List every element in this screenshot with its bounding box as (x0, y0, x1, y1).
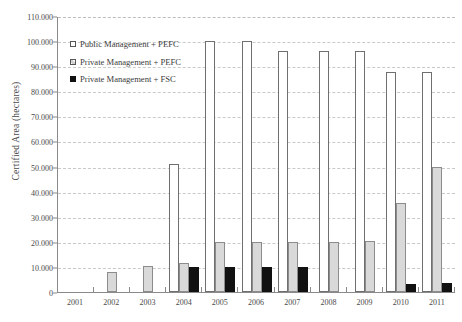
x-axis-tick-label: 2009 (347, 298, 383, 307)
bar-2005-series1 (205, 41, 215, 292)
x-axis-tick-label: 2008 (310, 298, 346, 307)
bar-2008-series2 (329, 242, 339, 292)
y-axis-tick-label: 60.000 (3, 138, 53, 147)
legend-swatch-icon (70, 76, 76, 82)
x-axis-tick-label: 2011 (419, 298, 455, 307)
x-axis-tick-label: 2007 (274, 298, 310, 307)
bar-2008-series1 (319, 51, 329, 292)
bar-group-2010 (383, 17, 419, 292)
chart-legend: Public Management + PEFCPrivate Manageme… (70, 40, 181, 93)
y-axis-tick-label: 10.000 (3, 263, 53, 272)
bar-2006-series2 (252, 242, 262, 292)
y-axis-tick-label: 100.000 (3, 38, 53, 47)
y-axis-tick-label: 50.000 (3, 163, 53, 172)
bar-2009-series2 (365, 241, 375, 292)
bar-2006-series1 (242, 41, 252, 292)
legend-label: Private Management + PEFC (80, 58, 181, 67)
x-axis-tick-label: 2001 (57, 298, 93, 307)
bar-group-2009 (347, 17, 383, 292)
legend-item-2: Private Management + PEFC (70, 58, 181, 67)
legend-swatch-icon (70, 59, 76, 65)
y-axis-tick-label: 40.000 (3, 188, 53, 197)
bar-2010-series2 (396, 203, 406, 292)
legend-label: Public Management + PEFC (80, 40, 179, 49)
bar-2010-series1 (386, 72, 396, 292)
legend-label: Private Management + FSC (80, 75, 176, 84)
x-axis-tick-label: 2004 (166, 298, 202, 307)
y-axis-tick-label: 0 (3, 289, 53, 298)
x-axis-tick-label: 2002 (93, 298, 129, 307)
bar-2007-series1 (278, 51, 288, 292)
bar-2011-series2 (432, 167, 442, 292)
bar-group-2005 (202, 17, 238, 292)
bar-2011-series1 (422, 72, 432, 292)
bar-group-2006 (238, 17, 274, 292)
bar-group-2011 (419, 17, 455, 292)
bar-2007-series3 (298, 267, 308, 292)
legend-item-1: Public Management + PEFC (70, 40, 181, 49)
y-axis-tick-label: 20.000 (3, 238, 53, 247)
legend-swatch-icon (70, 41, 76, 47)
y-axis-tick-label: 30.000 (3, 213, 53, 222)
bar-2010-series3 (406, 284, 416, 292)
x-axis-tick-label: 2006 (238, 298, 274, 307)
y-axis-tick-label: 80.000 (3, 88, 53, 97)
bar-2006-series3 (262, 267, 272, 292)
y-axis-title: Certified Area (hectares) (11, 31, 21, 231)
y-axis-tick-label: 70.000 (3, 113, 53, 122)
x-axis-tick-label: 2005 (202, 298, 238, 307)
bar-group-2008 (311, 17, 347, 292)
bar-group-2007 (275, 17, 311, 292)
bar-2005-series3 (225, 267, 235, 292)
bar-2004-series2 (179, 263, 189, 292)
bar-2007-series2 (288, 242, 298, 292)
x-axis-tick-label: 2010 (383, 298, 419, 307)
bar-2004-series1 (169, 164, 179, 292)
bar-chart: Certified Area (hectares) 110.000100.000… (0, 0, 462, 322)
bar-2002-series2 (107, 272, 117, 292)
legend-item-3: Private Management + FSC (70, 75, 181, 84)
bar-2005-series2 (215, 242, 225, 292)
bar-2004-series3 (189, 267, 199, 292)
x-axis-tick-label: 2003 (129, 298, 165, 307)
bar-2011-series3 (442, 283, 452, 292)
x-axis-tick-mark (454, 287, 455, 292)
y-axis-tick-label: 110.000 (3, 13, 53, 22)
bar-2003-series2 (143, 266, 153, 292)
bar-2009-series1 (355, 51, 365, 292)
y-axis-tick-label: 90.000 (3, 63, 53, 72)
x-axis-tick-labels: 2001200220032004200520062007200820092010… (57, 298, 455, 307)
